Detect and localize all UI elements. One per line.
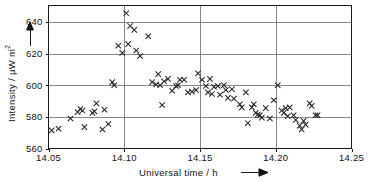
x-axis-title-text: Universal time / h — [139, 167, 218, 178]
data-point — [229, 87, 234, 92]
data-markers — [49, 11, 320, 133]
data-point — [215, 83, 220, 88]
data-point — [281, 110, 286, 115]
y-axis-title-exponent: -2 — [4, 45, 11, 51]
data-point — [116, 43, 121, 48]
y-tick-label: 600 — [26, 80, 42, 91]
x-axis-title: Universal time / h — [139, 167, 268, 178]
data-point — [223, 87, 228, 92]
data-point — [56, 126, 61, 131]
data-point — [145, 34, 150, 39]
data-point — [132, 27, 137, 32]
data-point — [287, 105, 292, 110]
data-point — [134, 48, 139, 53]
x-tick-label: 14.20 — [263, 152, 288, 163]
data-point — [169, 88, 174, 93]
chart-figure: 14.0514.1014.1514.2014.25 56058060062064… — [0, 0, 368, 182]
x-tick-label: 14.25 — [339, 152, 364, 163]
data-point — [155, 71, 160, 76]
data-point — [181, 77, 186, 82]
data-point — [125, 41, 130, 46]
data-point — [263, 105, 268, 110]
data-point — [102, 107, 107, 112]
data-point — [100, 127, 105, 132]
y-axis-title-text: Intensity / µW m — [6, 49, 17, 122]
data-point — [217, 92, 222, 97]
plot-frame — [49, 6, 352, 149]
data-point — [68, 116, 73, 121]
data-point — [231, 96, 236, 101]
data-point — [199, 77, 204, 82]
data-point — [203, 83, 208, 88]
scatter-chart: 14.0514.1014.1514.2014.25 56058060062064… — [0, 0, 368, 182]
y-axis-title: Intensity / µW m -2 — [4, 45, 17, 122]
y-tick-label: 560 — [26, 143, 42, 154]
data-point — [82, 124, 87, 129]
y-tick-label: 620 — [26, 48, 42, 59]
data-point — [159, 102, 164, 107]
data-point — [92, 109, 97, 114]
grid-lines — [49, 6, 352, 149]
data-point — [245, 121, 250, 126]
data-point — [225, 95, 230, 100]
data-point — [309, 103, 314, 108]
x-tick-label: 14.10 — [112, 152, 137, 163]
data-point — [195, 71, 200, 76]
y-tick-label: 580 — [26, 111, 42, 122]
data-point — [243, 90, 248, 95]
data-point — [49, 128, 54, 133]
data-point — [94, 101, 99, 106]
x-tick-label: 14.15 — [188, 152, 213, 163]
data-point — [80, 108, 85, 113]
data-point — [267, 116, 272, 121]
data-point — [271, 98, 276, 103]
data-point — [285, 113, 290, 118]
x-tick-labels: 14.0514.1014.1514.2014.25 — [36, 152, 364, 163]
data-point — [106, 121, 111, 126]
y-tick-labels: 560580600620640 — [26, 16, 42, 154]
data-point — [137, 53, 142, 58]
axis-ticks — [46, 23, 353, 152]
data-point — [207, 76, 212, 81]
